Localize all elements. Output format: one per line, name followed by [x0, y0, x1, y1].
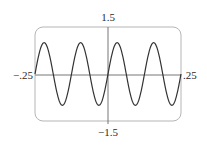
chart: 1.5 −1.5 −.25 .25 — [0, 0, 207, 145]
x-min-label: −.25 — [13, 69, 33, 81]
y-min-label: −1.5 — [98, 126, 118, 138]
x-max-label: .25 — [183, 69, 197, 81]
y-max-label: 1.5 — [101, 11, 115, 23]
